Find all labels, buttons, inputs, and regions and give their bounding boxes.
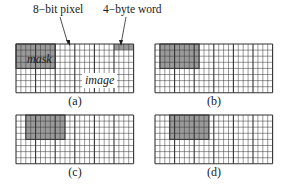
caption-b: (b): [194, 94, 234, 109]
caption-a: (a): [55, 94, 95, 109]
caption-d: (d): [194, 165, 234, 180]
mask-label: mask: [27, 52, 52, 67]
word-annotation-label: 4−byte word: [103, 3, 162, 15]
pixel-arrow: [60, 17, 68, 44]
mask-alignment-diagram: [0, 0, 287, 190]
caption-c: (c): [55, 165, 95, 180]
pixel-annotation-label: 8−bit pixel: [33, 3, 83, 15]
word-arrow: [121, 17, 126, 44]
image-label: image: [82, 73, 117, 88]
